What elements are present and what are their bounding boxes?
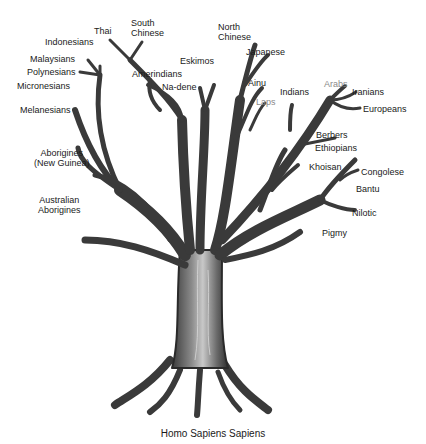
label-ainu: Ainu	[248, 78, 266, 88]
label-khoisan: Khoisan	[309, 162, 342, 172]
label-pigmy: Pigmy	[322, 228, 347, 238]
label-indians: Indians	[280, 87, 309, 97]
label-australian-aborigines-line1: Australian	[38, 195, 81, 205]
label-amerindians: Amerindians	[132, 69, 182, 79]
label-melanesians: Melanesians	[20, 105, 71, 115]
label-south-chinese-line1: South	[131, 18, 164, 28]
label-na-dene: Na-dene	[162, 82, 197, 92]
label-australian-aborigines: Australian Aborigines	[38, 195, 81, 215]
label-nilotic: Nilotic	[352, 208, 377, 218]
label-malaysians: Malaysians	[30, 54, 75, 64]
label-north-chinese-line1: North	[218, 22, 251, 32]
label-north-chinese-line2: Chinese	[218, 32, 251, 42]
label-eskimos: Eskimos	[180, 56, 214, 66]
label-ethiopians: Ethiopians	[315, 143, 357, 153]
label-polynesians: Polynesians	[27, 67, 76, 77]
trunk	[172, 250, 228, 368]
label-aborigines-new-guinea-line2: (New Guinea)	[34, 158, 90, 168]
label-congolese: Congolese	[361, 167, 404, 177]
label-arabs: Arabs	[324, 79, 348, 89]
label-south-chinese: South Chinese	[131, 18, 164, 38]
label-indonesians: Indonesians	[45, 37, 94, 47]
label-aborigines-new-guinea: Aborigines (New Guinea)	[34, 148, 90, 168]
label-iranians: Iranians	[352, 87, 384, 97]
label-north-chinese: North Chinese	[218, 22, 251, 42]
label-south-chinese-line2: Chinese	[131, 28, 164, 38]
label-europeans: Europeans	[363, 104, 407, 114]
label-bantu: Bantu	[356, 184, 380, 194]
label-berbers: Berbers	[316, 130, 348, 140]
label-aborigines-new-guinea-line1: Aborigines	[34, 148, 90, 158]
label-micronesians: Micronesians	[17, 81, 70, 91]
label-japanese: Japanese	[246, 47, 285, 57]
diagram-caption: Homo Sapiens Sapiens	[0, 428, 426, 439]
label-thai: Thai	[94, 26, 112, 36]
label-laps: Laps	[256, 97, 276, 107]
label-australian-aborigines-line2: Aborigines	[38, 205, 81, 215]
